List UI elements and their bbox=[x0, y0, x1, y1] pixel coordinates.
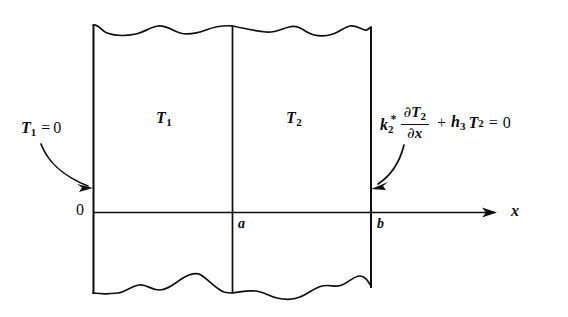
region-label-t1-symbol: T bbox=[156, 109, 166, 126]
right-annotation-arrow-curve bbox=[378, 145, 404, 184]
bc-left-operator: = bbox=[41, 119, 50, 136]
axis-tick-label-b: b bbox=[377, 217, 384, 231]
diagram-canvas bbox=[0, 0, 568, 317]
bc-right-conductivity-term: k2* bbox=[380, 113, 397, 135]
bc-right-plus-operator: + bbox=[437, 115, 446, 131]
bc-right-value: 0 bbox=[503, 115, 511, 131]
boundary-condition-right: k2* ∂T2 ∂x +h3T2=0 bbox=[380, 105, 511, 142]
bc-right-derivative-denominator: ∂x bbox=[404, 125, 425, 142]
axis-tick-label-origin: 0 bbox=[76, 202, 84, 218]
region-label-t2-symbol: T bbox=[286, 109, 296, 126]
bc-left-value: 0 bbox=[53, 119, 61, 136]
bc-right-coefficient: h bbox=[451, 113, 460, 130]
bc-right-conductivity-superscript: * bbox=[391, 112, 397, 126]
region-label-t1: T1 bbox=[156, 110, 172, 128]
axis-label-x: x bbox=[511, 203, 519, 219]
region-label-t1-subscript: 1 bbox=[166, 116, 172, 128]
bc-right-derivative-fraction: ∂T2 ∂x bbox=[401, 105, 429, 142]
bc-right-conductivity: k bbox=[380, 115, 388, 132]
bc-right-temperature-subscript: 2 bbox=[478, 118, 484, 129]
left-annotation-arrow-curve bbox=[41, 144, 88, 186]
bc-right-derivative-num-subscript: 2 bbox=[420, 110, 426, 122]
bc-right-derivative-den-var: x bbox=[415, 125, 423, 141]
bc-right-coefficient-term: h3 bbox=[451, 114, 465, 132]
bc-right-derivative-numerator: ∂T2 bbox=[401, 105, 429, 124]
boundary-condition-left: T1=0 bbox=[21, 120, 61, 138]
bottom-wavy-edge-right bbox=[232, 276, 371, 299]
partial-symbol-denominator: ∂ bbox=[407, 124, 415, 142]
region-label-t2: T2 bbox=[286, 110, 302, 128]
bc-left-subscript: 1 bbox=[31, 126, 37, 138]
bottom-wavy-edge-left bbox=[93, 274, 232, 294]
axis-tick-label-a: a bbox=[238, 217, 245, 231]
bc-right-temperature: T bbox=[468, 115, 478, 131]
top-wavy-edge-right bbox=[232, 26, 371, 36]
bc-right-equals: = bbox=[489, 115, 498, 131]
top-wavy-edge-left bbox=[93, 25, 232, 35]
slab-diagram-figure: T1 T2 T1=0 k2* ∂T2 ∂x +h3T2=0 0 a b x bbox=[0, 0, 568, 317]
region-label-t2-subscript: 2 bbox=[296, 116, 302, 128]
bc-left-variable: T bbox=[21, 119, 31, 136]
bc-right-coefficient-subscript: 3 bbox=[460, 121, 466, 133]
